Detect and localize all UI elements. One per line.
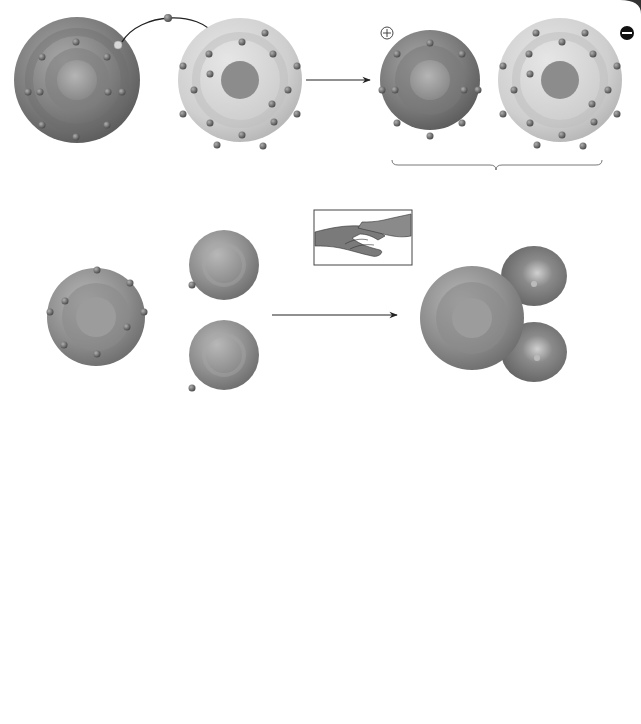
cropped-edge-shape — [620, 0, 641, 14]
chloride-ion — [498, 18, 622, 150]
sodium-atom — [14, 17, 140, 143]
hydrogen-atom-bottom — [189, 320, 260, 392]
negative-charge-icon — [620, 26, 634, 40]
handshake-icon — [314, 210, 412, 265]
hydrogen-atom-top — [189, 230, 260, 300]
panel-a — [14, 0, 641, 170]
chlorine-atom — [178, 18, 302, 150]
positive-charge-icon — [381, 27, 393, 39]
panel-b — [47, 210, 568, 392]
figure-canvas — [0, 0, 641, 724]
transferred-electron-origin — [114, 41, 122, 49]
oxygen-atom — [47, 267, 148, 367]
water-molecule — [420, 246, 567, 382]
sodium-ion — [379, 30, 482, 140]
compound-brace — [392, 160, 602, 170]
transferring-electron — [164, 14, 172, 22]
